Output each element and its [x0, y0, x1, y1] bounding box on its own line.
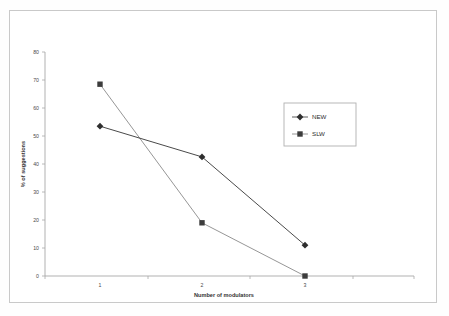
line-chart: 80 70 60 50 40 30 20 10 0 % of suggestio… — [0, 0, 449, 316]
y-tick-label-50: 50 — [33, 133, 39, 139]
series-slw-point-3 — [302, 273, 307, 278]
x-axis-title: Number of modulators — [194, 292, 254, 298]
legend-label-new: NEW — [312, 113, 327, 120]
x-tick-label-2: 2 — [201, 282, 204, 288]
series-slw-point-2 — [199, 220, 204, 225]
x-axis-ticks — [45, 276, 414, 279]
series-new-point-1 — [97, 123, 104, 130]
page-canvas: 80 70 60 50 40 30 20 10 0 % of suggestio… — [0, 0, 449, 316]
y-tick-label-70: 70 — [33, 77, 39, 83]
y-tick-label-40: 40 — [33, 161, 39, 167]
x-axis-tick-labels: 1 2 3 — [99, 282, 307, 288]
legend-box — [284, 103, 356, 146]
y-tick-label-0: 0 — [36, 273, 39, 279]
y-axis-tick-labels: 80 70 60 50 40 30 20 10 0 — [33, 49, 39, 279]
series-slw-line — [100, 84, 305, 276]
x-tick-label-3: 3 — [304, 282, 307, 288]
x-tick-label-1: 1 — [99, 282, 102, 288]
series-new-line — [100, 126, 305, 245]
y-tick-label-60: 60 — [33, 105, 39, 111]
square-marker-icon — [297, 131, 302, 136]
series-slw-point-1 — [97, 82, 102, 87]
y-tick-label-80: 80 — [33, 49, 39, 55]
chart-legend: NEW SLW — [284, 103, 356, 146]
chart-svg: 80 70 60 50 40 30 20 10 0 % of suggestio… — [0, 0, 449, 316]
y-axis-title: % of suggestions — [20, 141, 26, 187]
y-tick-label-10: 10 — [33, 245, 39, 251]
legend-label-slw: SLW — [312, 130, 325, 137]
series-new — [97, 123, 309, 249]
y-tick-label-20: 20 — [33, 217, 39, 223]
series-slw — [97, 82, 307, 279]
y-tick-label-30: 30 — [33, 189, 39, 195]
